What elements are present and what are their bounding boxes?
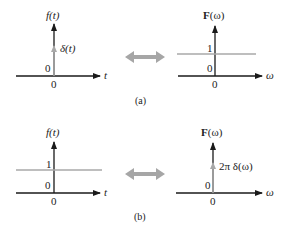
fourier-pairs-diagram: f(t) t 0 0 δ(t) F(ω) ω 1 0 0 (a) (0, 0, 284, 232)
y-axis-label: F(ω) (201, 126, 223, 139)
origin-y-label: 0 (45, 179, 51, 191)
y-axis-label: f(t) (46, 9, 60, 22)
panel-a: f(t) t 0 0 δ(t) F(ω) ω 1 0 0 (a) (16, 9, 274, 107)
x-axis-label: ω (266, 186, 274, 198)
x-axis-label: ω (266, 69, 274, 81)
panel-b-time-plot: f(t) t 1 0 0 (16, 126, 108, 207)
origin-x-label: 0 (212, 78, 218, 90)
origin-y-label: 0 (45, 62, 51, 74)
origin-x-label: 0 (51, 195, 57, 207)
origin-y-label: 0 (207, 62, 213, 74)
caption-a: (a) (135, 95, 146, 107)
impulse-label: δ(t) (60, 42, 76, 55)
y-axis-label: F(ω) (203, 9, 225, 22)
level-label: 1 (46, 158, 52, 170)
origin-y-label: 0 (205, 179, 211, 191)
x-axis-label: t (104, 186, 108, 198)
impulse-label: 2π δ(ω) (219, 160, 253, 173)
panel-b: f(t) t 1 0 0 F(ω) ω 2π δ(ω) 0 0 (b) (16, 126, 274, 223)
y-axis-label: f(t) (46, 126, 60, 139)
level-label: 1 (207, 42, 213, 54)
transform-pair-arrow-icon (125, 51, 165, 63)
caption-b: (b) (134, 211, 146, 223)
panel-b-freq-plot: F(ω) ω 2π δ(ω) 0 0 (176, 126, 274, 207)
origin-x-label: 0 (210, 195, 216, 207)
origin-x-label: 0 (51, 78, 57, 90)
transform-pair-arrow-icon (125, 168, 165, 180)
x-axis-label: t (104, 69, 108, 81)
panel-a-freq-plot: F(ω) ω 1 0 0 (177, 9, 274, 90)
panel-a-time-plot: f(t) t 0 0 δ(t) (16, 9, 108, 90)
